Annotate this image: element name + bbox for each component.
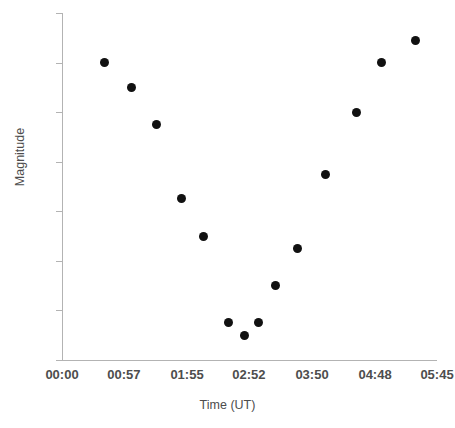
data-point <box>254 318 263 327</box>
data-point <box>224 318 233 327</box>
data-point <box>321 170 330 179</box>
y-axis-tick <box>56 112 62 113</box>
y-axis-tick <box>56 261 62 262</box>
plot-area: 6.46.66.87.07.27.47.67.8 00:0000:5701:55… <box>0 0 455 428</box>
x-axis-tick-label: 01:55 <box>152 368 222 381</box>
magnitude-time-scatter-chart: 6.46.66.87.07.27.47.67.8 00:0000:5701:55… <box>0 0 455 428</box>
data-point <box>293 244 302 253</box>
y-axis-tick <box>56 63 62 64</box>
x-axis-tick-label: 03:50 <box>277 368 347 381</box>
x-axis-line <box>62 360 437 361</box>
data-point <box>377 58 386 67</box>
y-axis-tick <box>56 211 62 212</box>
x-axis-title: Time (UT) <box>0 398 455 412</box>
x-axis-tick-label: 02:52 <box>214 368 284 381</box>
y-axis-tick <box>56 360 62 361</box>
x-axis-tick-label: 05:45 <box>402 368 455 381</box>
data-point <box>177 194 186 203</box>
y-axis-tick <box>56 13 62 14</box>
data-point <box>411 36 420 45</box>
data-point <box>240 331 249 340</box>
data-point <box>199 232 208 241</box>
x-axis-tick-label: 00:00 <box>27 368 97 381</box>
x-axis-tick-label: 04:48 <box>340 368 410 381</box>
y-axis-line <box>62 13 63 361</box>
y-axis-tick <box>56 162 62 163</box>
data-point <box>271 281 280 290</box>
data-point <box>152 120 161 129</box>
data-point <box>127 83 136 92</box>
y-axis-title: Magnitude <box>13 107 27 207</box>
x-axis-tick-label: 00:57 <box>89 368 159 381</box>
data-point <box>352 108 361 117</box>
data-point <box>100 58 109 67</box>
y-axis-tick <box>56 310 62 311</box>
